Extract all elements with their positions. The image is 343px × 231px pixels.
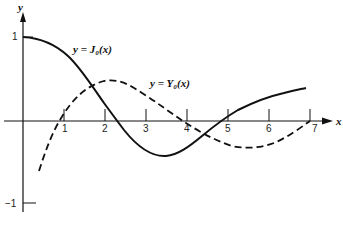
j0-label: y = J₀(x) bbox=[71, 43, 112, 56]
x-tick-label-1: 1 bbox=[62, 123, 68, 134]
y-axis-label: y bbox=[16, 1, 23, 13]
x-tick-label-3: 3 bbox=[143, 123, 149, 134]
x-axis-arrow-icon bbox=[322, 118, 333, 125]
x-tick-label-7: 7 bbox=[312, 123, 318, 134]
chart-canvas: y x 1 −1 1 2 3 4 5 6 7 y = J₀(x) y = Y₀(… bbox=[0, 0, 343, 231]
x-axis-label: x bbox=[335, 115, 342, 127]
bessel-chart: y x 1 −1 1 2 3 4 5 6 7 y = J₀(x) y = Y₀(… bbox=[0, 0, 343, 231]
y-axis-arrow-icon bbox=[20, 12, 26, 22]
y0-label: y = Y₀(x) bbox=[148, 77, 190, 90]
y-tick-label-1: 1 bbox=[12, 31, 18, 42]
y-tick-label-neg1: −1 bbox=[5, 198, 17, 209]
x-tick-label-5: 5 bbox=[225, 123, 231, 134]
j0-curve bbox=[23, 37, 306, 156]
x-tick-label-2: 2 bbox=[102, 123, 108, 134]
x-ticks bbox=[64, 109, 310, 121]
x-tick-label-6: 6 bbox=[266, 123, 272, 134]
